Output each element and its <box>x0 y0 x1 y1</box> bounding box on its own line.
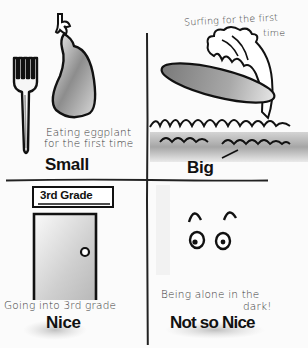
caption-3rd-grade: Going into 3rd grade <box>4 300 116 311</box>
label-not-so-nice: Not so Nice <box>170 313 255 333</box>
sign-text: 3rd Grade <box>40 189 93 201</box>
drawing-canvas: Eating eggplant for the first time Small… <box>0 0 308 348</box>
fork-icon <box>14 58 37 153</box>
label-small: Small <box>45 155 89 175</box>
caption-dark-line2: dark! <box>243 301 272 312</box>
door-icon <box>34 214 96 300</box>
label-big: Big <box>187 158 213 178</box>
caption-eggplant-line2: for the first time <box>44 138 134 149</box>
eggplant-icon <box>53 14 95 117</box>
caption-dark-line1: Being alone in the <box>161 289 260 300</box>
eyes-icon <box>189 212 236 249</box>
caption-surfing-line2: time <box>263 27 285 38</box>
door-knob-icon <box>81 248 89 256</box>
ocean-waves <box>150 120 308 162</box>
label-nice: Nice <box>46 313 81 333</box>
